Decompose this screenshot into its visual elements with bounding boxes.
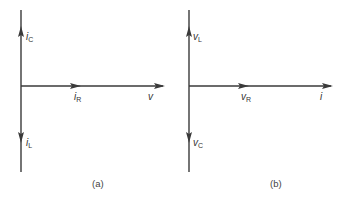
phasor-label-right-mid: iR (74, 91, 81, 103)
phasor-label-down: iL (26, 137, 32, 149)
panel-b: vL vR i vC (b) (186, 10, 333, 189)
phasor-label-right-end: v (148, 91, 154, 102)
panel-a: iC iR v iL (a) (18, 10, 165, 189)
phasor-label-right-end: i (320, 91, 323, 102)
panel-caption: (a) (92, 178, 104, 189)
phasor-label-up: vL (193, 31, 202, 43)
panel-caption: (b) (270, 178, 282, 189)
phasor-label-right-mid: vR (241, 91, 251, 103)
phasor-label-down: vC (193, 137, 203, 149)
phasor-label-up: iC (26, 31, 33, 43)
phasor-diagrams: iC iR v iL (a) vL vR i vC (b) (0, 0, 338, 201)
